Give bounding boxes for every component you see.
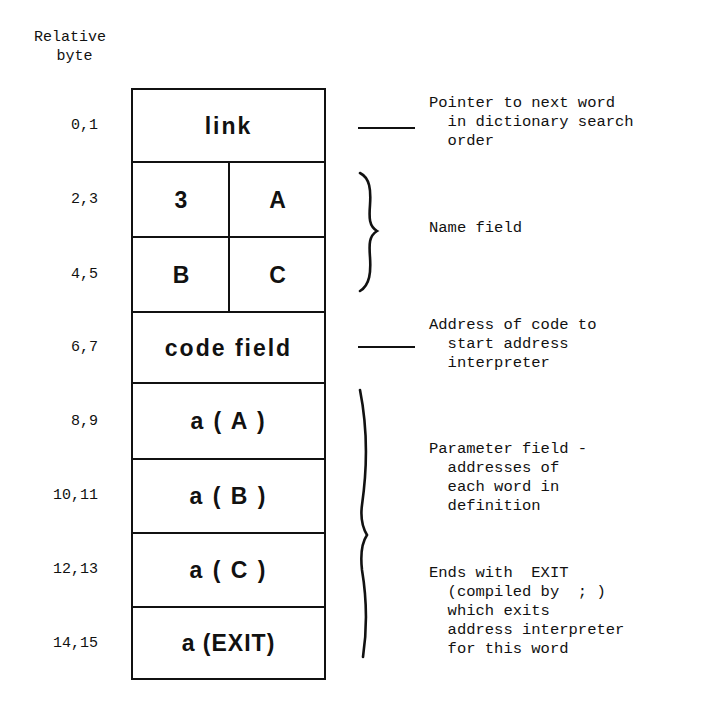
annotation-line: which exits — [429, 602, 550, 620]
annotation-line: for this word — [429, 640, 569, 658]
exit-annotation: Ends with EXIT (compiled by ; ) which ex… — [429, 564, 624, 659]
annotation-line: interpreter — [429, 354, 550, 372]
annotation-line: Address of code to — [429, 316, 596, 334]
name-field-annotation: Name field — [429, 219, 522, 238]
annotation-line: definition — [429, 497, 541, 515]
annotation-line: address interpreter — [429, 621, 624, 639]
name-field-brace-icon — [360, 173, 377, 291]
annotation-line: Pointer to next word — [429, 94, 615, 112]
parameter-field-annotation: Parameter field - addresses of each word… — [429, 440, 587, 516]
annotation-line: start address — [429, 335, 569, 353]
code-field-annotation: Address of code to start address interpr… — [429, 316, 596, 373]
annotation-line: (compiled by ; ) — [429, 583, 606, 601]
annotation-line: in dictionary search — [429, 113, 634, 131]
annotation-line: order — [429, 132, 494, 150]
link-annotation: Pointer to next word in dictionary searc… — [429, 94, 634, 151]
annotation-line: Ends with EXIT — [429, 564, 569, 582]
parameter-field-brace-icon — [360, 390, 367, 657]
annotation-line: Parameter field - — [429, 440, 587, 458]
annotation-line: each word in — [429, 478, 559, 496]
annotation-line: addresses of — [429, 459, 559, 477]
